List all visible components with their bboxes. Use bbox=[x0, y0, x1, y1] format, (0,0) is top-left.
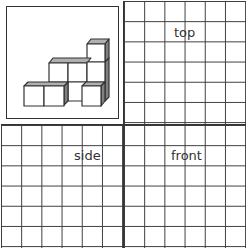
cube-figure-quadrant bbox=[1, 1, 123, 124]
front-view-label: front bbox=[171, 148, 202, 163]
front-view-grid[interactable]: front bbox=[123, 124, 246, 248]
side-view-label: side bbox=[74, 148, 101, 163]
cube-figure-panel bbox=[6, 6, 119, 119]
top-view-grid[interactable]: top bbox=[123, 1, 246, 124]
isometric-cubes-illustration bbox=[7, 7, 120, 120]
side-view-grid[interactable]: side bbox=[1, 124, 123, 248]
top-view-label: top bbox=[174, 25, 195, 40]
